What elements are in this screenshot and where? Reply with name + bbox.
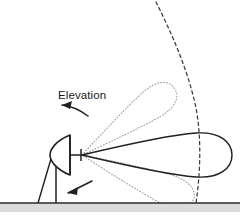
feed-horn — [70, 149, 82, 161]
elevation-arrow-lower — [68, 181, 92, 195]
elevation-arrow-upper — [62, 101, 88, 116]
main-beam-lobe — [82, 133, 232, 177]
antenna-beam-diagram: Elevation — [0, 0, 240, 220]
elevation-label: Elevation — [58, 89, 106, 101]
figure-container: Elevation — [0, 0, 240, 220]
ground-fill — [0, 203, 240, 212]
ground — [0, 203, 240, 212]
parabolic-dish-antenna — [50, 135, 70, 175]
